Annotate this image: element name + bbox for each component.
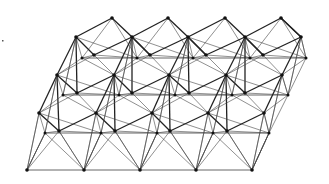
- edge: [45, 133, 84, 170]
- edge: [189, 93, 208, 113]
- edge: [188, 37, 189, 93]
- edge: [96, 113, 115, 131]
- edges: [27, 18, 306, 170]
- lattice-diagram: [0, 0, 329, 184]
- edge: [169, 75, 170, 131]
- edge: [206, 37, 245, 55]
- edge: [150, 37, 188, 55]
- edge: [227, 131, 252, 170]
- graph-node: [112, 73, 116, 77]
- graph-node: [224, 73, 228, 77]
- edge: [57, 37, 76, 75]
- edge: [132, 93, 152, 113]
- graph-node: [81, 57, 84, 60]
- edge: [114, 37, 132, 75]
- edge: [157, 133, 196, 170]
- edge: [252, 133, 269, 170]
- graph-node: [94, 111, 98, 115]
- graph-node: [62, 94, 65, 97]
- edge: [288, 58, 306, 95]
- edge: [96, 113, 157, 133]
- edge: [264, 113, 269, 133]
- graph-node: [75, 91, 79, 95]
- graph-node: [194, 168, 198, 172]
- graph-node: [261, 53, 265, 57]
- graph-node: [174, 94, 177, 97]
- edge: [226, 37, 245, 75]
- edge: [115, 113, 152, 131]
- graph-node: [192, 57, 195, 60]
- edge: [94, 37, 132, 55]
- graph-node: [212, 132, 215, 135]
- graph-node: [231, 94, 234, 97]
- graph-node: [150, 111, 154, 115]
- edge: [59, 113, 96, 131]
- graph-node: [44, 132, 47, 135]
- edge: [59, 131, 84, 170]
- graph-node: [279, 16, 283, 20]
- edge: [115, 131, 140, 170]
- edge: [282, 37, 301, 75]
- edge: [245, 93, 264, 113]
- graph-node: [249, 57, 252, 60]
- edge: [193, 18, 225, 58]
- edge: [282, 75, 288, 95]
- edge: [252, 113, 264, 170]
- graph-node: [130, 35, 134, 39]
- edge: [170, 131, 196, 170]
- graph-node: [156, 132, 159, 135]
- edge: [27, 113, 39, 170]
- edge: [170, 113, 208, 131]
- edge: [245, 37, 263, 55]
- graph-node: [92, 53, 96, 57]
- edge: [245, 75, 282, 93]
- stray-mark: [2, 40, 4, 42]
- graph-node: [187, 91, 191, 95]
- graph-node: [168, 129, 172, 133]
- edge: [84, 113, 96, 170]
- graph-node: [148, 53, 152, 57]
- graph-node: [118, 94, 121, 97]
- graph-node: [100, 132, 103, 135]
- graph-node: [206, 111, 210, 115]
- edge: [208, 113, 269, 133]
- edge: [77, 75, 114, 93]
- edge: [269, 95, 288, 133]
- graph-node: [243, 91, 247, 95]
- edge: [188, 37, 206, 55]
- edge: [132, 75, 169, 93]
- edge: [77, 93, 96, 113]
- graph-node: [136, 57, 139, 60]
- graph-node: [268, 132, 271, 135]
- edge: [226, 75, 288, 95]
- graph-node: [113, 129, 117, 133]
- graph-node: [225, 129, 229, 133]
- graph-node: [37, 111, 41, 115]
- edge: [137, 58, 169, 75]
- graph-node: [223, 16, 227, 20]
- edge: [137, 18, 168, 58]
- graph-node: [57, 129, 61, 133]
- edge: [250, 18, 281, 58]
- edge: [152, 93, 189, 113]
- graph-node: [166, 16, 170, 20]
- graph-node: [130, 91, 134, 95]
- graph-node: [204, 53, 208, 57]
- graph-node: [250, 168, 254, 172]
- edge: [189, 75, 226, 93]
- edge: [208, 113, 227, 131]
- edge: [188, 18, 225, 37]
- edge: [140, 113, 152, 170]
- edge: [213, 133, 252, 170]
- edge: [301, 37, 306, 58]
- graph-node: [138, 168, 142, 172]
- edge: [227, 113, 264, 131]
- graph-node: [25, 168, 29, 172]
- edge: [196, 113, 208, 170]
- edge: [82, 58, 114, 75]
- graph-node: [55, 73, 59, 77]
- edge: [269, 75, 282, 133]
- graph-node: [262, 111, 266, 115]
- graph-node: [305, 57, 308, 60]
- graph-node: [243, 35, 247, 39]
